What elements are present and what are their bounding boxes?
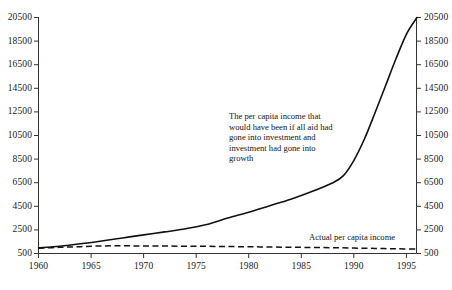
y-axis-right-ticks bbox=[417, 18, 422, 254]
y-axis-right-tick-20500: 20500 bbox=[424, 12, 452, 22]
actual-series-label: Actual per capita income bbox=[309, 232, 395, 243]
y-axis-left-tick-12500: 12500 bbox=[0, 106, 32, 116]
y-axis-right-tick-12500: 12500 bbox=[424, 106, 452, 116]
y-axis-right-tick-4500: 4500 bbox=[424, 201, 452, 211]
x-axis-tick-1980: 1980 bbox=[229, 261, 269, 271]
x-axis-ticks bbox=[39, 254, 407, 259]
y-axis-left-tick-6500: 6500 bbox=[0, 177, 32, 187]
chart-plot-area bbox=[0, 0, 452, 290]
x-axis-tick-1985: 1985 bbox=[281, 261, 321, 271]
counterfactual-series-annotation: The per capita income that would have be… bbox=[229, 111, 347, 164]
series-line-actual bbox=[39, 246, 418, 249]
y-axis-left-ticks bbox=[34, 18, 39, 254]
y-axis-right-tick-6500: 6500 bbox=[424, 177, 452, 187]
series-line-counterfactual bbox=[39, 18, 418, 248]
x-axis-tick-1960: 1960 bbox=[19, 261, 59, 271]
y-axis-left-tick-8500: 8500 bbox=[0, 154, 32, 164]
y-axis-right-tick-500: 500 bbox=[424, 248, 452, 258]
y-axis-left-tick-18500: 18500 bbox=[0, 36, 32, 46]
y-axis-left-tick-4500: 4500 bbox=[0, 201, 32, 211]
y-axis-right-tick-10500: 10500 bbox=[424, 130, 452, 140]
x-axis-tick-1975: 1975 bbox=[176, 261, 216, 271]
x-axis-tick-1965: 1965 bbox=[71, 261, 111, 271]
y-axis-right-tick-18500: 18500 bbox=[424, 36, 452, 46]
y-axis-right-tick-16500: 16500 bbox=[424, 59, 452, 69]
x-axis-tick-1990: 1990 bbox=[334, 261, 374, 271]
y-axis-left-tick-2500: 2500 bbox=[0, 224, 32, 234]
y-axis-left-tick-14500: 14500 bbox=[0, 83, 32, 93]
y-axis-right-tick-2500: 2500 bbox=[424, 224, 452, 234]
x-axis-tick-1970: 1970 bbox=[124, 261, 164, 271]
y-axis-left-tick-16500: 16500 bbox=[0, 59, 32, 69]
y-axis-right-tick-8500: 8500 bbox=[424, 154, 452, 164]
chart-figure: 20500 18500 16500 14500 12500 10500 8500… bbox=[0, 0, 452, 290]
y-axis-left-tick-500: 500 bbox=[0, 248, 32, 258]
y-axis-right-tick-14500: 14500 bbox=[424, 83, 452, 93]
y-axis-left-tick-10500: 10500 bbox=[0, 130, 32, 140]
y-axis-left-tick-20500: 20500 bbox=[0, 12, 32, 22]
x-axis-tick-1995: 1995 bbox=[386, 261, 426, 271]
